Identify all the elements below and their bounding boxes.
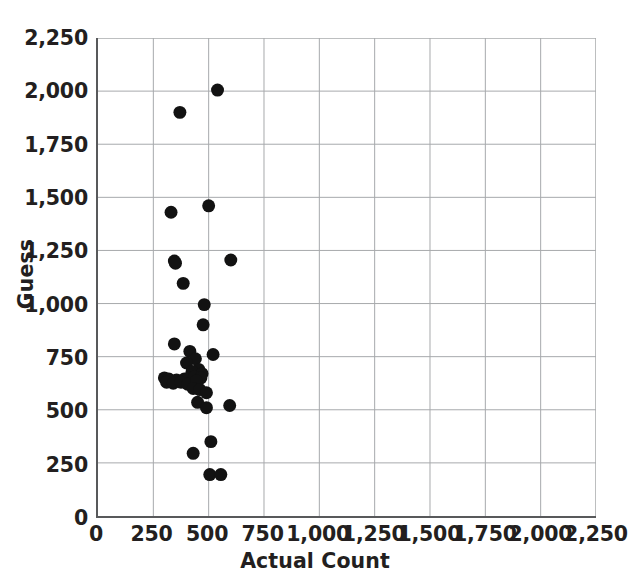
x-axis-title: Actual Count	[0, 549, 630, 573]
plot-area	[96, 38, 596, 518]
x-tick-label: 250	[130, 522, 172, 546]
data-point	[202, 199, 215, 212]
data-point	[224, 254, 237, 267]
data-point	[200, 386, 213, 399]
y-tick-label: 1,750	[24, 133, 88, 157]
x-tick-label: 500	[186, 522, 228, 546]
data-point	[169, 257, 182, 270]
data-point	[177, 277, 190, 290]
data-points-layer	[98, 38, 596, 516]
scatter-plot-figure: 02505007501,0001,2501,5001,7502,0002,250…	[0, 0, 630, 579]
data-point	[173, 106, 186, 119]
data-point	[200, 401, 213, 414]
data-point	[214, 468, 227, 481]
x-tick-label: 1,750	[453, 522, 517, 546]
data-point	[198, 298, 211, 311]
y-tick-label: 0	[74, 506, 88, 530]
y-tick-label: 2,000	[24, 79, 88, 103]
x-tick-label: 0	[89, 522, 103, 546]
y-axis-title: Guess	[14, 214, 38, 334]
y-tick-label: 750	[46, 346, 88, 370]
data-point	[187, 447, 200, 460]
x-tick-label: 2,250	[564, 522, 628, 546]
data-point	[168, 337, 181, 350]
y-tick-label: 1,500	[24, 186, 88, 210]
data-point	[197, 318, 210, 331]
data-point	[204, 435, 217, 448]
x-tick-label: 1,500	[397, 522, 461, 546]
x-axis-tick-labels: 02505007501,0001,2501,5001,7502,0002,250	[96, 522, 596, 552]
y-tick-label: 250	[46, 453, 88, 477]
x-tick-label: 2,000	[509, 522, 573, 546]
y-tick-label: 2,250	[24, 26, 88, 50]
data-point	[207, 348, 220, 361]
data-point	[211, 84, 224, 97]
data-point	[223, 399, 236, 412]
x-tick-label: 1,250	[342, 522, 406, 546]
data-point	[165, 206, 178, 219]
data-point	[203, 468, 216, 481]
y-tick-label: 500	[46, 399, 88, 423]
x-tick-label: 1,000	[286, 522, 350, 546]
x-tick-label: 750	[242, 522, 284, 546]
